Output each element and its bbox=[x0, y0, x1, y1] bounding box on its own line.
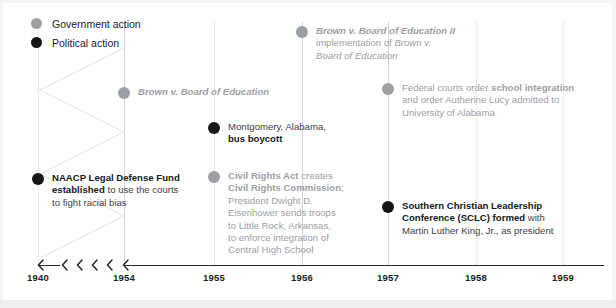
timeline-event-brown-2[interactable]: Civil Rights Act createsCivil Rights Com… bbox=[214, 170, 344, 257]
axis-break-zigzag-decoration bbox=[38, 48, 126, 268]
gridline-1959 bbox=[563, 22, 565, 265]
event-label-montgomery: Montgomery, Alabama,bus boycott bbox=[228, 121, 326, 146]
event-label-federal-courts: Brown v. Board of Education IIimplementa… bbox=[316, 25, 455, 62]
event-marker-dot-icon bbox=[32, 173, 44, 185]
event-label-civil-rights-act: Federal courts order school integrationa… bbox=[402, 82, 574, 119]
government-action-dot-icon bbox=[31, 18, 42, 29]
figure-border-left bbox=[0, 0, 3, 308]
figure-border-top bbox=[0, 0, 616, 3]
legend-item-government-action: Government action bbox=[31, 14, 141, 33]
political-action-dot-icon bbox=[31, 37, 42, 48]
legend-item-political-action: Political action bbox=[31, 33, 141, 52]
timeline-event-civil-rights-act[interactable]: Federal courts order school integrationa… bbox=[388, 82, 574, 119]
figure-border-bottom bbox=[0, 300, 616, 308]
event-label-brown-1: Brown v. Board of Education bbox=[138, 86, 269, 98]
axis-tick-label-1957: 1957 bbox=[377, 272, 399, 283]
timeline-event-brown-1[interactable]: Brown v. Board of Education bbox=[124, 86, 269, 99]
axis-tick-label-1958: 1958 bbox=[465, 272, 487, 283]
legend: Government action Political action bbox=[31, 14, 141, 52]
axis-line bbox=[124, 265, 604, 266]
axis-tick-label-1959: 1959 bbox=[552, 272, 574, 283]
event-label-sclc: Southern Christian LeadershipConference … bbox=[402, 200, 553, 237]
axis-tick-label-1954: 1954 bbox=[113, 272, 135, 283]
gridline-1940 bbox=[38, 22, 40, 265]
event-label-brown-2: Civil Rights Act createsCivil Rights Com… bbox=[228, 170, 344, 257]
event-label-naacp: NAACP Legal Defense Fundestablished to u… bbox=[52, 172, 180, 209]
timeline-event-montgomery[interactable]: Montgomery, Alabama,bus boycott bbox=[214, 121, 326, 146]
event-marker-dot-icon bbox=[382, 201, 394, 213]
timeline-event-naacp[interactable]: NAACP Legal Defense Fundestablished to u… bbox=[38, 172, 180, 209]
axis-tick-label-1955: 1955 bbox=[203, 272, 225, 283]
timeline-chart: Government action Political action Brown… bbox=[0, 0, 616, 308]
legend-label-government-action: Government action bbox=[52, 18, 141, 30]
event-marker-dot-icon bbox=[208, 122, 220, 134]
axis-tick-label-1940: 1940 bbox=[27, 272, 49, 283]
event-marker-dot-icon bbox=[382, 83, 394, 95]
timeline-event-federal-courts[interactable]: Brown v. Board of Education IIimplementa… bbox=[302, 25, 455, 62]
axis-tick-label-1956: 1956 bbox=[291, 272, 313, 283]
figure-border-right bbox=[612, 0, 616, 308]
gridline-1954 bbox=[124, 22, 126, 265]
event-marker-dot-icon bbox=[118, 87, 130, 99]
timeline-event-sclc[interactable]: Southern Christian LeadershipConference … bbox=[388, 200, 553, 237]
legend-label-political-action: Political action bbox=[52, 37, 119, 49]
event-marker-dot-icon bbox=[208, 171, 220, 183]
event-marker-dot-icon bbox=[296, 26, 308, 38]
